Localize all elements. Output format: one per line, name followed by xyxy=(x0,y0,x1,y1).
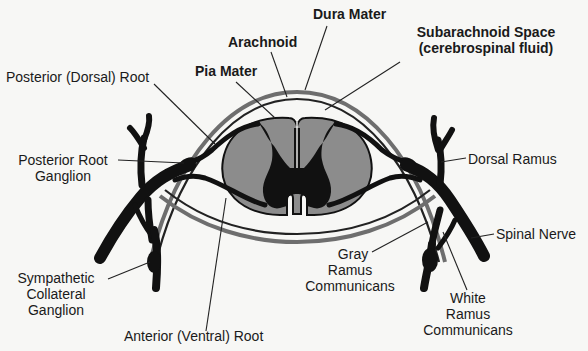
label-sympathetic-line3: Ganglion xyxy=(8,302,104,318)
label-posterior-dorsal-root: Posterior (Dorsal) Root xyxy=(6,69,149,85)
leader-posterior-root-ganglion xyxy=(118,160,184,163)
leader-dura-mater xyxy=(305,26,327,90)
leader-posterior-dorsal-root xyxy=(154,84,215,144)
label-white-ramus-line2: Ramus xyxy=(418,306,518,322)
right-sympathetic-ganglion xyxy=(422,248,438,272)
label-pia-mater: Pia Mater xyxy=(195,63,257,79)
label-dorsal-ramus: Dorsal Ramus xyxy=(468,151,557,167)
label-gray-ramus-line2: Ramus xyxy=(300,262,400,278)
label-sympathetic-line2: Collateral xyxy=(8,286,104,302)
label-spinal-nerve: Spinal Nerve xyxy=(496,226,576,242)
leader-sympathetic xyxy=(108,262,150,279)
label-dura-mater: Dura Mater xyxy=(313,6,386,22)
label-white-ramus-line1: White xyxy=(418,290,518,306)
label-arachnoid: Arachnoid xyxy=(228,34,297,50)
right-white-ramus xyxy=(438,220,455,248)
leader-anterior-ventral-root xyxy=(206,198,226,331)
leader-subarachnoid xyxy=(325,62,400,110)
right-dorsal-ramus-branch-a xyxy=(433,118,438,150)
leader-arachnoid xyxy=(271,52,287,97)
label-anterior-ventral-root: Anterior (Ventral) Root xyxy=(124,328,263,344)
label-posterior-root-ganglion: Posterior Root Ganglion xyxy=(8,152,118,184)
leader-dorsal-ramus xyxy=(441,158,466,162)
label-white-ramus-line3: Communicans xyxy=(418,322,518,338)
spinal-cord xyxy=(222,118,371,215)
label-gray-ramus-line1: Gray xyxy=(300,246,400,262)
label-subarachnoid-line2: (cerebrospinal fluid) xyxy=(406,40,566,56)
label-subarachnoid-line1: Subarachnoid Space xyxy=(406,24,566,40)
label-posterior-root-ganglion-line1: Posterior Root xyxy=(8,152,118,168)
label-sympathetic-line1: Sympathetic xyxy=(8,270,104,286)
label-gray-ramus-line3: Communicans xyxy=(300,278,400,294)
label-white-ramus-communicans: White Ramus Communicans xyxy=(418,290,518,338)
label-posterior-root-ganglion-line2: Ganglion xyxy=(8,168,118,184)
leader-pia-mater xyxy=(236,82,275,118)
left-dorsal-ramus-branch-b xyxy=(144,116,149,140)
right-dorsal-ramus-branch-b xyxy=(440,130,452,150)
label-subarachnoid-space: Subarachnoid Space (cerebrospinal fluid) xyxy=(406,24,566,56)
label-sympathetic-collateral-ganglion: Sympathetic Collateral Ganglion xyxy=(8,270,104,318)
label-gray-ramus-communicans: Gray Ramus Communicans xyxy=(300,246,400,294)
